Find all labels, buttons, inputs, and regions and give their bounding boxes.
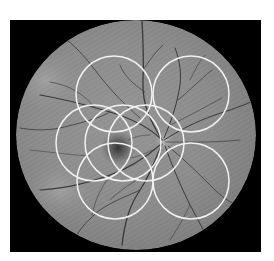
fundus-figure — [0, 0, 274, 261]
fundus-image — [0, 0, 274, 261]
